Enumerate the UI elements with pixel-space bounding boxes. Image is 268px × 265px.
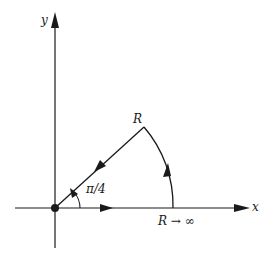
contour-diagram: y x R R → ∞ π/4: [0, 0, 268, 265]
y-axis-label: y: [41, 14, 48, 26]
direction-arrow-arc-icon: [163, 163, 171, 177]
x-axis: [15, 204, 250, 212]
diagram-graphics: [0, 0, 268, 265]
origin-dot: [51, 204, 59, 212]
y-axis-arrowhead-icon: [51, 12, 59, 28]
y-axis: [51, 12, 59, 248]
x-axis-arrowhead-icon: [234, 204, 250, 212]
x-axis-label: x: [252, 201, 259, 213]
corner-point-label: R: [133, 113, 142, 125]
direction-arrow-right-icon: [100, 204, 113, 212]
arc-end-label: R → ∞: [158, 215, 195, 227]
direction-arrow-ray-icon: [94, 160, 106, 172]
angle-label: π/4: [86, 183, 106, 195]
